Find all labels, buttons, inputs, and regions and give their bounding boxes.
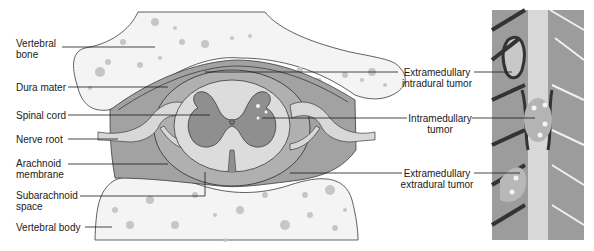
label-extramedullary-extradural-tumor: Extramedullary extradural tumor (400, 168, 474, 190)
label-text: bone (16, 49, 56, 60)
label-dura-mater: Dura mater (16, 82, 66, 93)
label-intramedullary-tumor: Intramedullary tumor (408, 113, 472, 135)
longitudinal-spine-view (492, 10, 584, 240)
label-extramedullary-intradural-tumor: Extramedullary intradural tumor (400, 67, 474, 89)
label-vertebral-bone: Vertebral bone (16, 38, 56, 60)
spinal-cord-shape (174, 80, 290, 172)
label-text: Spinal cord (16, 110, 66, 121)
label-text: Nerve root (16, 134, 63, 145)
label-text: Vertebral body (16, 222, 81, 233)
label-text: Dura mater (16, 82, 66, 93)
label-text: space (16, 201, 78, 212)
label-text: extradural tumor (400, 179, 474, 190)
label-text: intradural tumor (400, 78, 474, 89)
label-text: Arachnoid (16, 158, 64, 169)
label-text: tumor (408, 124, 472, 135)
label-nerve-root: Nerve root (16, 134, 63, 145)
label-spinal-cord: Spinal cord (16, 110, 66, 121)
spinal-cord-diagram (0, 0, 594, 251)
label-text: Subarachnoid (16, 190, 78, 201)
label-vertebral-body: Vertebral body (16, 222, 81, 233)
label-text: Vertebral (16, 38, 56, 49)
label-arachnoid-membrane: Arachnoid membrane (16, 158, 64, 180)
label-subarachnoid-space: Subarachnoid space (16, 190, 78, 212)
label-text: membrane (16, 169, 64, 180)
label-text: Intramedullary (408, 113, 472, 124)
label-text: Extramedullary (400, 67, 474, 78)
label-text: Extramedullary (400, 168, 474, 179)
